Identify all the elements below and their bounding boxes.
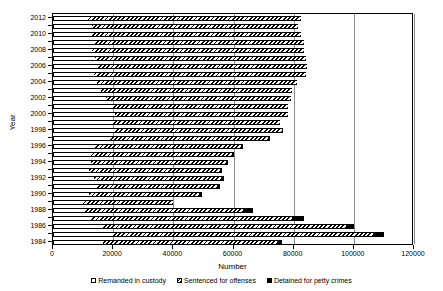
bar-segment-sentenced-for-offenses (92, 48, 304, 53)
legend-item-label: Remanded in custody (98, 277, 166, 284)
horizontal-stacked-bar-chart: 2012201020082006200420022000199819961994… (0, 0, 443, 291)
y-axis-tick (48, 185, 52, 186)
gridline (414, 14, 415, 244)
y-axis-tick-label: 1988 (20, 206, 46, 213)
bar-segment-detained-for-petty-crimes (277, 240, 282, 245)
bar-segment-sentenced-for-offenses (82, 200, 174, 205)
y-axis-tick (48, 97, 52, 98)
y-axis-tick (48, 33, 52, 34)
bar-row (53, 64, 307, 69)
bar-segment-sentenced-for-offenses (91, 216, 293, 221)
bar-segment-remanded-in-custody (53, 192, 89, 197)
bar-segment-remanded-in-custody (53, 168, 89, 173)
bar-segment-sentenced-for-offenses (97, 184, 217, 189)
x-axis-tick (353, 245, 354, 249)
bar-segment-sentenced-for-offenses (88, 16, 302, 21)
bar-segment-sentenced-for-offenses (106, 96, 291, 101)
bar-row (53, 224, 354, 229)
bar-segment-sentenced-for-offenses (95, 144, 241, 149)
x-axis-tick (52, 245, 53, 249)
bar-segment-remanded-in-custody (53, 176, 94, 181)
bar-segment-detained-for-petty-crimes (220, 168, 222, 173)
y-axis-tick-label: 2002 (20, 94, 46, 101)
filled-square-marker (267, 278, 272, 283)
bar-row (53, 152, 234, 157)
bar-row (53, 16, 301, 21)
bar-segment-remanded-in-custody (53, 80, 97, 85)
bar-segment-sentenced-for-offenses (91, 152, 232, 157)
bar-row (53, 48, 304, 53)
x-axis-tick (413, 245, 414, 249)
bar-segment-remanded-in-custody (53, 224, 103, 229)
y-axis-tick (48, 105, 52, 106)
bar-row (53, 32, 301, 37)
y-axis-tick-label: 2006 (20, 62, 46, 69)
bar-segment-sentenced-for-offenses (103, 224, 347, 229)
bar-segment-detained-for-petty-crimes (243, 208, 254, 213)
x-axis-tick-label: 80000 (268, 250, 318, 258)
bar-series-container (53, 14, 412, 244)
bar-segment-sentenced-for-offenses (94, 72, 306, 77)
bar-segment-sentenced-for-offenses (92, 24, 298, 29)
y-axis-tick-label: 1998 (20, 126, 46, 133)
bar-segment-remanded-in-custody (53, 40, 94, 45)
bar-row (53, 216, 304, 221)
y-axis-tick (48, 201, 52, 202)
bar-row (53, 160, 228, 165)
bar-row (53, 184, 220, 189)
bar-segment-sentenced-for-offenses (103, 240, 277, 245)
y-axis-tick-label: 1986 (20, 222, 46, 229)
y-axis-tick (48, 89, 52, 90)
bar-segment-sentenced-for-offenses (91, 160, 226, 165)
y-axis-tick-label: 2000 (20, 110, 46, 117)
bar-segment-detained-for-petty-crimes (199, 192, 202, 197)
x-axis-tick-label: 60000 (208, 250, 258, 258)
legend-item: Remanded in custody (91, 277, 166, 284)
x-axis-title: Number (52, 262, 413, 271)
bar-segment-detained-for-petty-crimes (346, 224, 354, 229)
bar-segment-sentenced-for-offenses (91, 32, 302, 37)
y-axis-tick (48, 25, 52, 26)
y-axis-tick-label: 1994 (20, 158, 46, 165)
y-axis-tick (48, 57, 52, 58)
bar-segment-remanded-in-custody (53, 104, 112, 109)
y-axis-tick-label: 1984 (20, 238, 46, 245)
y-axis-tick (48, 161, 52, 162)
bar-row (53, 240, 282, 245)
bar-row (53, 120, 280, 125)
bar-row (53, 144, 243, 149)
bar-segment-sentenced-for-offenses (112, 104, 288, 109)
bar-segment-remanded-in-custody (53, 88, 101, 93)
y-axis-tick (48, 81, 52, 82)
bar-row (53, 24, 298, 29)
y-axis-tick (48, 49, 52, 50)
y-axis-tick (48, 129, 52, 130)
y-axis-tick (48, 65, 52, 66)
bar-segment-remanded-in-custody (53, 32, 91, 37)
legend-item-label: Detained for petty crimes (274, 277, 352, 284)
bar-segment-sentenced-for-offenses (95, 56, 306, 61)
bar-segment-detained-for-petty-crimes (292, 216, 304, 221)
bar-segment-remanded-in-custody (53, 112, 115, 117)
x-axis-tick (233, 245, 234, 249)
y-axis-title: Year (8, 103, 17, 143)
bar-segment-remanded-in-custody (53, 96, 106, 101)
bar-row (53, 200, 173, 205)
y-axis-tick-label: 2008 (20, 46, 46, 53)
bar-segment-sentenced-for-offenses (94, 176, 222, 181)
y-axis-tick (48, 241, 52, 242)
bar-segment-remanded-in-custody (53, 184, 97, 189)
y-axis-tick-label: 1990 (20, 190, 46, 197)
bar-row (53, 208, 253, 213)
bar-row (53, 176, 224, 181)
bar-segment-detained-for-petty-crimes (232, 152, 234, 157)
open-square-marker (91, 278, 96, 283)
x-axis-tick-label: 100000 (328, 250, 378, 258)
bar-row (53, 72, 306, 77)
x-axis-tick (112, 245, 113, 249)
bar-segment-detained-for-petty-crimes (226, 160, 228, 165)
y-axis-tick (48, 145, 52, 146)
bar-segment-remanded-in-custody (53, 208, 85, 213)
bar-row (53, 40, 304, 45)
bar-segment-remanded-in-custody (53, 144, 95, 149)
